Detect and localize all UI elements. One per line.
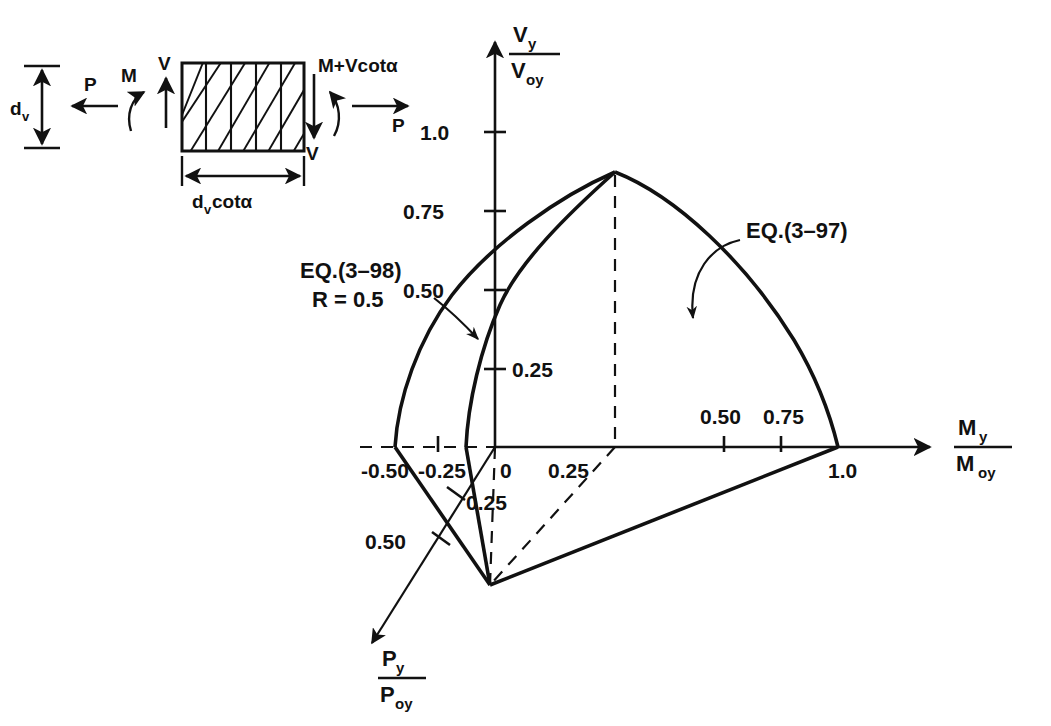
annotation-eq-3-98-line2: R = 0.5 <box>312 287 384 312</box>
moment-left: M <box>121 65 144 131</box>
y-axis-numerator-sub: y <box>528 35 537 52</box>
x-axis-denominator-sub: oy <box>978 464 996 481</box>
z-axis-numerator-sub: y <box>396 659 405 676</box>
moment-left-label: M <box>121 65 137 86</box>
axial-right-label: P <box>392 115 405 136</box>
annotation-eq-3-97-line1: EQ.(3–97) <box>746 218 848 243</box>
y-tick-label-025: 0.25 <box>512 358 553 381</box>
x-tick-label-origin: 0 <box>500 459 512 482</box>
x-axis-ticks <box>438 436 781 452</box>
shear-left-up: V <box>158 53 171 128</box>
y-axis-numerator: V <box>513 22 528 47</box>
edge-base-right <box>490 447 838 585</box>
y-tick-label-050: 0.50 <box>403 279 444 302</box>
x-tick-label-075: 0.75 <box>763 405 804 428</box>
depth-label-sub: v <box>22 109 30 124</box>
y-axis-denominator-sub: oy <box>526 71 544 88</box>
z-axis-denominator: P <box>380 682 395 707</box>
annotation-eq-3-98-line1: EQ.(3–98) <box>300 258 402 283</box>
x-axis-title: M y M oy <box>954 415 1012 481</box>
x-tick-label-neg050: -0.50 <box>361 459 409 482</box>
axial-force-left: P <box>72 74 118 106</box>
x-axis-numerator: M <box>958 415 976 440</box>
x-tick-label-025: 0.25 <box>548 459 589 482</box>
axial-left-label: P <box>84 74 97 95</box>
moment-right: M+Vcotα <box>318 55 398 136</box>
width-label: d <box>192 191 204 212</box>
annotation-eq-3-98-leader <box>434 298 478 339</box>
z-axis-denominator-sub: oy <box>395 695 413 712</box>
dash-origin-to-pvertex <box>490 447 495 585</box>
figure-svg: d v P M V <box>0 0 1051 726</box>
axial-force-right: P <box>352 106 408 136</box>
x-tick-label-1: 1.0 <box>828 459 857 482</box>
annotation-eq-3-97-leader <box>692 240 740 318</box>
y-tick-label-075: 0.75 <box>403 200 444 223</box>
z-tick-label-025: 0.25 <box>466 491 507 514</box>
x-axis-numerator-sub: y <box>979 428 988 445</box>
y-axis-denominator: V <box>511 58 526 83</box>
interaction-surface-plot: 1.0 0.75 0.50 0.25 -0.50 -0.25 0 0.25 0.… <box>300 22 1012 712</box>
shear-top-label: V <box>158 53 171 74</box>
shear-bottom-label: V <box>306 143 319 164</box>
inset-shear-panel: d v P M V <box>10 53 408 217</box>
y-axis-title: V y V oy <box>509 22 560 88</box>
z-tick-label-050: 0.50 <box>365 530 406 553</box>
z-axis-title: P y P oy <box>378 646 426 712</box>
shear-right-down: V <box>306 74 319 164</box>
z-axis-ticks <box>432 487 465 545</box>
y-tick-label-1: 1.0 <box>420 121 449 144</box>
x-tick-label-050: 0.50 <box>700 405 741 428</box>
width-label-sub: v <box>204 202 212 217</box>
x-axis-denominator: M <box>956 451 974 476</box>
depth-dimension: d v <box>10 66 60 148</box>
x-tick-label-neg025: -0.25 <box>418 459 466 482</box>
figure-root: d v P M V <box>0 0 1051 726</box>
depth-label: d <box>10 98 22 119</box>
moment-right-label: M+Vcotα <box>318 55 398 76</box>
width-dimension: d v cotα <box>182 156 304 217</box>
edge-vertical-front <box>466 447 490 585</box>
width-label-tail: cotα <box>212 191 253 212</box>
z-axis-numerator: P <box>382 646 397 671</box>
